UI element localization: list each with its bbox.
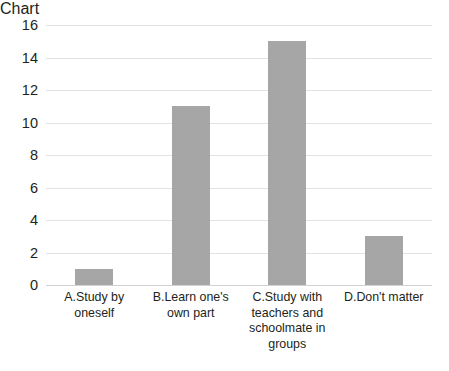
bar	[365, 236, 403, 285]
y-axis-tick-label: 16	[8, 17, 38, 33]
bar	[172, 106, 210, 285]
plot-area	[46, 25, 432, 285]
gridline	[46, 285, 432, 286]
scan-artifact	[60, 8, 64, 20]
y-axis-tick-label: 8	[8, 147, 38, 163]
x-axis-category-label: B.Learn one's own part	[143, 290, 240, 321]
bar	[268, 41, 306, 285]
gridline	[46, 188, 432, 189]
y-axis-tick-label: 2	[8, 245, 38, 261]
y-axis-tick-label: 6	[8, 180, 38, 196]
gridline	[46, 220, 432, 221]
gridline	[46, 123, 432, 124]
y-axis-tick-label: 10	[8, 115, 38, 131]
y-axis-tick-label: 4	[8, 212, 38, 228]
gridline	[46, 155, 432, 156]
y-axis-tick-label: 12	[8, 82, 38, 98]
x-axis-category-label: A.Study by oneself	[46, 290, 143, 321]
x-axis-category-label: D.Don't matter	[336, 290, 433, 306]
gridline	[46, 25, 432, 26]
y-axis-tick-label: 14	[8, 50, 38, 66]
x-axis-category-label: C.Study with teachers and schoolmate in …	[239, 290, 336, 352]
bar-chart: 0246810121416 A.Study by oneselfB.Learn …	[0, 0, 449, 371]
gridline	[46, 58, 432, 59]
bar	[75, 269, 113, 285]
gridline	[46, 90, 432, 91]
y-axis-tick-label: 0	[8, 277, 38, 293]
